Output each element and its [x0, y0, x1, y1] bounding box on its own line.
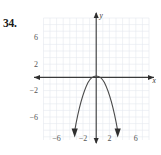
y-axis — [94, 12, 99, 144]
y-tick-label--2: −2 — [29, 86, 38, 95]
curve-arrow-left — [72, 129, 78, 138]
y-tick-label--6: −6 — [29, 113, 38, 122]
x-tick-label--2: −2 — [79, 134, 88, 143]
x-tick-label--6: −6 — [52, 134, 61, 143]
x-tick-label-6: 6 — [134, 134, 138, 143]
curve-arrow-right — [115, 129, 121, 138]
y-axis-label: y — [99, 11, 104, 20]
coordinate-plane: x y −6 −2 2 6 6 2 −2 −6 — [0, 0, 161, 155]
x-axis-label: x — [152, 76, 157, 85]
x-tick-label-2: 2 — [107, 134, 111, 143]
y-tick-label-2: 2 — [34, 60, 38, 69]
y-tick-label-6: 6 — [34, 33, 38, 42]
graph-figure: 34. — [0, 0, 161, 155]
